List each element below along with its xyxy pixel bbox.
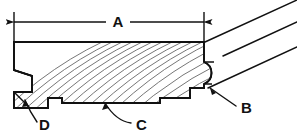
technical-drawing-canvas: A <box>0 0 297 136</box>
cross-section-diagram: A <box>0 0 297 136</box>
leader-line-b <box>210 88 236 106</box>
leader-line-c <box>105 103 131 123</box>
dimension-a-group: A <box>14 12 204 43</box>
break-line-bottom <box>208 47 297 88</box>
break-line-middle <box>223 22 297 56</box>
callout-label-d: D <box>39 116 50 133</box>
break-lines-group <box>205 0 297 88</box>
callout-label-c: C <box>136 116 147 133</box>
break-line-top <box>205 0 297 42</box>
callout-label-b: B <box>241 99 252 116</box>
dimension-label-a: A <box>113 13 124 30</box>
